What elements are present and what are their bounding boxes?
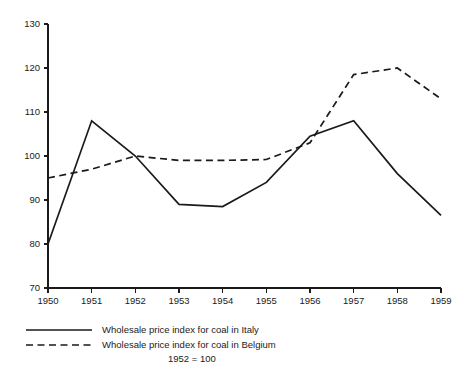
chart-plot-area — [0, 0, 471, 377]
x-tick-label: 1954 — [203, 296, 243, 306]
y-tick-label: 100 — [14, 151, 40, 161]
legend-key-dashed-line-icon — [26, 340, 92, 350]
x-tick-label: 1953 — [159, 296, 199, 306]
y-tick-label: 80 — [14, 239, 40, 249]
legend-item-belgium: Wholesale price index for coal in Belgiu… — [26, 337, 446, 352]
legend-key-solid-line-icon — [26, 325, 92, 335]
legend-label-italy: Wholesale price index for coal in Italy — [102, 324, 259, 335]
x-tick-label: 1956 — [290, 296, 330, 306]
y-tick-label: 90 — [14, 195, 40, 205]
series-line-italy — [48, 121, 441, 244]
x-tick-label: 1952 — [115, 296, 155, 306]
x-tick-label: 1951 — [72, 296, 112, 306]
x-tick-label: 1957 — [334, 296, 374, 306]
legend-label-belgium: Wholesale price index for coal in Belgiu… — [102, 339, 276, 350]
x-tick-label: 1959 — [421, 296, 461, 306]
legend-base-year-note: 1952 = 100 — [168, 353, 446, 364]
x-tick-label: 1950 — [28, 296, 68, 306]
x-tick-label: 1955 — [246, 296, 286, 306]
y-tick-label: 130 — [14, 19, 40, 29]
legend-item-italy: Wholesale price index for coal in Italy — [26, 322, 446, 337]
y-tick-label: 120 — [14, 63, 40, 73]
chart-series — [48, 68, 441, 244]
chart-legend: Wholesale price index for coal in Italy … — [26, 322, 446, 364]
x-tick-label: 1958 — [377, 296, 417, 306]
chart-figure: 708090100110120130 195019511952195319541… — [0, 0, 471, 377]
series-line-belgium — [48, 68, 441, 178]
y-tick-label: 110 — [14, 107, 40, 117]
y-tick-label: 70 — [14, 283, 40, 293]
chart-axes — [44, 24, 441, 293]
